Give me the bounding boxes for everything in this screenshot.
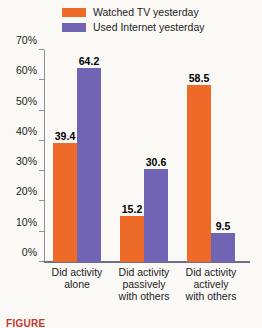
cat-line: with others	[106, 290, 182, 302]
legend-label-watched-tv: Watched TV yesterday	[93, 7, 199, 18]
y-tick-70	[39, 49, 44, 50]
bar-value-watched-tv-passive: 15.2	[122, 204, 142, 215]
y-axis-line	[44, 50, 45, 262]
x-category-label-passive: Did activity passively with others	[106, 266, 182, 302]
bar-watched-tv-active: 58.5	[187, 85, 211, 262]
bar-used-internet-active: 9.5	[211, 233, 235, 262]
figure-caption: FIGURE	[6, 318, 46, 328]
bar-used-internet-alone: 64.2	[77, 68, 101, 262]
legend-swatch-used-internet	[62, 23, 86, 32]
y-tick-40	[39, 140, 44, 141]
y-tick-label-50: 50%	[16, 96, 37, 106]
x-category-label-active: Did activity actively with others	[173, 266, 249, 302]
y-tick-50	[39, 110, 44, 111]
y-tick-20	[39, 200, 44, 201]
y-tick-10	[39, 231, 44, 232]
x-category-label-alone: Did activity alone	[39, 266, 115, 290]
cat-line: Did activity	[173, 266, 249, 278]
y-tick-label-10: 10%	[16, 217, 37, 227]
y-tick-0	[39, 261, 44, 262]
y-tick-label-20: 20%	[16, 186, 37, 196]
y-tick-60	[39, 79, 44, 80]
legend-label-used-internet: Used Internet yesterday	[93, 22, 204, 33]
legend-item-used-internet: Used Internet yesterday	[62, 21, 204, 34]
y-tick-label-40: 40%	[16, 126, 37, 136]
y-tick-label-60: 60%	[16, 65, 37, 75]
y-tick-label-0: 0%	[22, 247, 37, 257]
cat-line: Did activity	[39, 266, 115, 278]
cat-line: Did activity	[106, 266, 182, 278]
bar-value-watched-tv-alone: 39.4	[55, 131, 75, 142]
cat-line: passively	[106, 278, 182, 290]
cat-line: with others	[173, 290, 249, 302]
bar-value-watched-tv-active: 58.5	[189, 73, 209, 84]
bar-watched-tv-alone: 39.4	[53, 143, 77, 262]
bar-value-used-internet-passive: 30.6	[146, 157, 166, 168]
bar-value-used-internet-active: 9.5	[216, 221, 231, 232]
chart-legend: Watched TV yesterday Used Internet yeste…	[62, 6, 204, 36]
bar-used-internet-passive: 30.6	[144, 169, 168, 262]
cat-line: actively	[173, 278, 249, 290]
legend-swatch-watched-tv	[62, 8, 86, 17]
cat-line: alone	[39, 278, 115, 290]
y-tick-label-70: 70%	[16, 35, 37, 45]
y-tick-30	[39, 170, 44, 171]
y-tick-label-30: 30%	[16, 156, 37, 166]
legend-item-watched-tv: Watched TV yesterday	[62, 6, 204, 19]
bar-value-used-internet-alone: 64.2	[79, 56, 99, 67]
figure-bar-chart: Watched TV yesterday Used Internet yeste…	[0, 0, 262, 328]
bar-watched-tv-passive: 15.2	[120, 216, 144, 262]
plot-area: 0% 10% 20% 30% 40% 50% 60% 70% 39.4 64.2…	[44, 50, 244, 262]
